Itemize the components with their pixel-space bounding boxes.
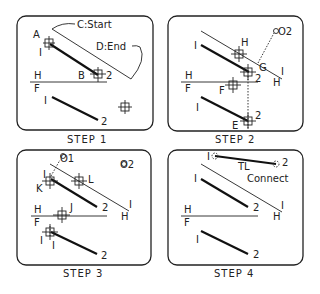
step-caption: STEP 4 [214, 268, 254, 279]
label-point-2: 2 [101, 116, 107, 127]
crosshair-icon [43, 36, 55, 50]
step-caption: STEP 3 [63, 268, 103, 279]
crosshair-icon [240, 64, 256, 80]
label-h: H [34, 70, 42, 81]
label-point-2-circle: O2 [278, 26, 292, 37]
auxiliary-line [50, 164, 129, 211]
label-point-2: 2 [282, 157, 288, 168]
label-g: G [259, 62, 267, 73]
front-view-line [201, 97, 248, 121]
label-l: L [88, 174, 94, 185]
crosshair-icon [225, 77, 241, 93]
label-connect: Connect [247, 173, 288, 184]
label-f: F [185, 83, 191, 94]
label-point-1: I [196, 234, 199, 245]
label-start: C:Start [77, 19, 112, 30]
label-point-1: I [207, 151, 210, 162]
label-point-2-circle: O2 [120, 159, 134, 170]
crosshair-icon [71, 173, 87, 189]
crosshair-icon [42, 224, 58, 240]
crosshair-icon [90, 67, 106, 82]
label-point-2: 2 [106, 70, 112, 81]
label-point-1: I [52, 240, 55, 251]
panel-step-1: A I B 2 H F I 2 C:Start D:End STEP 1 [17, 16, 153, 145]
label-true-length: TL [237, 161, 250, 172]
label-end: D:End [96, 41, 126, 52]
label-point-1: I [43, 169, 46, 180]
front-view-line [201, 231, 248, 254]
panel-step-3: O1 O2 I K L 2 I H H F J I I 2 STEP 3 [17, 150, 151, 279]
label-point-1: I [44, 95, 47, 106]
label-point-1: I [194, 173, 197, 184]
step-caption: STEP 2 [215, 134, 255, 145]
label-b: B [78, 70, 85, 81]
auxiliary-view-steps-diagram: A I B 2 H F I 2 C:Start D:End STEP 1 [0, 0, 320, 294]
label-h: H [34, 204, 42, 215]
end-leader [131, 46, 142, 79]
label-point-2: 2 [101, 250, 107, 261]
label-j: J [69, 202, 73, 213]
label-f: F [184, 217, 190, 228]
label-fold-1: I [129, 199, 132, 210]
top-view-line [201, 179, 248, 207]
label-point-2: 2 [102, 202, 108, 213]
label-e: E [232, 120, 238, 131]
label-point-1: I [39, 47, 42, 58]
label-a: A [33, 29, 40, 40]
label-fold-h: H [273, 211, 281, 222]
crosshair-icon [231, 46, 247, 62]
label-fold-1: I [281, 200, 284, 211]
front-view-line [51, 232, 97, 254]
projection-line [258, 33, 274, 63]
label-point-2: 2 [253, 249, 259, 260]
label-f: F [34, 83, 40, 94]
crosshair-icon [53, 207, 70, 223]
label-fold-h: H [273, 77, 281, 88]
label-point-1: I [196, 102, 199, 113]
top-view-line [50, 44, 98, 75]
label-h: H [185, 70, 193, 81]
crosshair-icon [118, 100, 132, 114]
panel-step-2: I H O2 G 2 I H H F F I 2 E STEP 2 [168, 16, 303, 145]
label-point-2: 2 [255, 73, 261, 84]
label-point-1-circle: O1 [60, 153, 74, 164]
start-leader [52, 24, 75, 29]
label-h: H [184, 204, 192, 215]
projection-line [51, 160, 60, 176]
crosshair-icon [240, 113, 256, 129]
label-point-2: 2 [253, 202, 259, 213]
panel-step-4: I TL 2 Connect I 2 I H H F I 2 STEP 4 [168, 150, 303, 279]
label-f: F [34, 217, 40, 228]
top-view-line [201, 45, 249, 72]
label-f-point: F [219, 85, 225, 96]
label-fold-1: I [281, 66, 284, 77]
label-point-1: I [40, 235, 43, 246]
label-k: K [36, 183, 43, 194]
front-view-line [52, 97, 98, 120]
label-fold-h: H [121, 211, 129, 222]
label-point-1: I [194, 40, 197, 51]
label-point-2: 2 [255, 110, 261, 121]
label-h: H [241, 37, 249, 48]
step-caption: STEP 1 [67, 134, 107, 145]
